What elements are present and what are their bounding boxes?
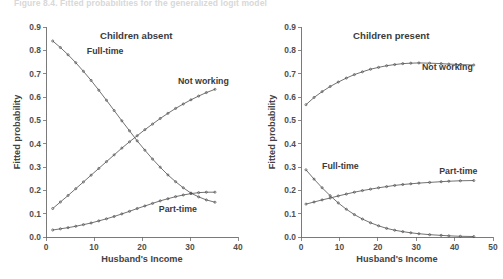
series-label-full-time: Full-time [322, 161, 359, 171]
x-tick-label: 20 [373, 242, 383, 252]
x-tick-label: 40 [450, 242, 460, 252]
y-tick-label: 0.8 [29, 45, 41, 55]
series-label-full-time: Full-time [87, 46, 124, 56]
x-axis-title: Husband's Income [101, 254, 182, 264]
y-axis-title: Fitted probability [12, 94, 22, 169]
y-tick-label: 0.9 [29, 22, 41, 32]
series-label-part-time: Part-time [439, 166, 477, 176]
chart-svg-children-absent: 0.00.10.20.30.40.50.60.70.80.9010203040H… [0, 13, 251, 279]
series-curve [53, 89, 215, 208]
panel-title: Children absent [100, 30, 173, 41]
chart-panel-children-absent: 0.00.10.20.30.40.50.60.70.80.9010203040H… [0, 13, 251, 279]
series-label-part-time: Part-time [159, 204, 197, 214]
y-tick-label: 0.1 [284, 209, 296, 219]
y-tick-label: 0.4 [284, 139, 296, 149]
series-label-not-working: Not working [422, 62, 473, 72]
y-tick-label: 0.8 [284, 45, 296, 55]
series-marker [305, 169, 307, 171]
y-tick-label: 0.6 [284, 92, 296, 102]
y-tick-label: 0.3 [29, 162, 41, 172]
chart-svg-children-present: 0.00.10.20.30.40.50.60.70.80.90102030405… [251, 13, 502, 279]
y-tick-label: 0.5 [29, 115, 41, 125]
y-tick-label: 0.7 [284, 69, 296, 79]
y-tick-label: 0.4 [29, 139, 41, 149]
y-tick-label: 0.2 [284, 185, 296, 195]
series-not-working: Not working [305, 62, 475, 106]
series-part-time: Part-time [52, 191, 216, 231]
x-tick-label: 10 [335, 242, 345, 252]
x-tick-label: 30 [412, 242, 422, 252]
y-tick-label: 0.5 [284, 115, 296, 125]
series-curve [53, 41, 215, 202]
y-tick-label: 0.9 [284, 22, 296, 32]
series-marker [305, 104, 307, 106]
chart-panel-children-present: 0.00.10.20.30.40.50.60.70.80.90102030405… [251, 13, 502, 279]
series-marker [305, 203, 307, 205]
x-tick-label: 0 [299, 242, 304, 252]
y-tick-label: 0.3 [284, 162, 296, 172]
series-curve [306, 181, 474, 205]
x-tick-label: 10 [89, 242, 99, 252]
figure-root: Figure 8.4. Fitted probabilities for the… [0, 0, 503, 279]
series-label-not-working: Not working [178, 76, 229, 86]
series-not-working: Not working [52, 76, 229, 209]
series-part-time: Part-time [305, 166, 478, 205]
x-tick-label: 0 [44, 242, 49, 252]
figure-caption: Figure 8.4. Fitted probabilities for the… [14, 0, 484, 9]
x-axis-title: Husband's Income [356, 254, 437, 264]
x-tick-label: 40 [233, 242, 243, 252]
y-tick-label: 0.2 [29, 185, 41, 195]
y-tick-label: 0.1 [29, 209, 41, 219]
panel-title: Children present [353, 30, 430, 41]
x-tick-label: 30 [185, 242, 195, 252]
y-axis-title: Fitted probability [267, 94, 277, 169]
series-curve [306, 170, 474, 237]
y-tick-label: 0.7 [29, 69, 41, 79]
x-tick-label: 20 [137, 242, 147, 252]
series-full-time: Full-time [52, 40, 216, 203]
y-tick-label: 0.0 [29, 232, 41, 242]
y-tick-label: 0.0 [284, 232, 296, 242]
y-tick-label: 0.6 [29, 92, 41, 102]
x-tick-label: 50 [488, 242, 498, 252]
